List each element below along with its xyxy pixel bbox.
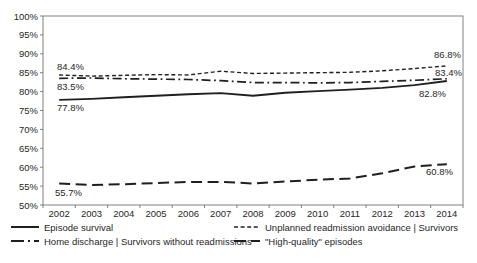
x-axis-label: 2013 xyxy=(404,208,425,219)
y-axis-label: 90% xyxy=(19,48,39,59)
series-line-unplanned-readmission-avoidance-survivors xyxy=(59,66,447,76)
y-axis-label: 65% xyxy=(19,143,39,154)
y-axis-label: 85% xyxy=(19,67,39,78)
x-axis-label: 2012 xyxy=(372,208,393,219)
solid-line-sample-icon xyxy=(10,222,40,232)
y-axis-label: 80% xyxy=(19,86,39,97)
data-label: 83.4% xyxy=(435,67,462,78)
data-label: 83.5% xyxy=(57,81,84,92)
plot-border xyxy=(43,16,463,205)
data-label: 86.8% xyxy=(434,49,461,60)
data-label: 60.8% xyxy=(426,166,453,177)
legend-item-episode-survival: Episode survival xyxy=(10,222,233,233)
legend-label-high-quality-episodes: "High-quality" episodes xyxy=(265,236,363,247)
y-axis-label: 95% xyxy=(19,29,39,40)
line-chart-figure: 100%95%90%85%80%75%70%65%60%55%50%200220… xyxy=(0,0,477,263)
dash-dot-line-sample-icon xyxy=(10,236,40,246)
x-axis-label: 2009 xyxy=(275,208,296,219)
legend-label-unplanned-readmission-avoidance: Unplanned readmission avoidance | Surviv… xyxy=(265,222,458,233)
legend-label-episode-survival: Episode survival xyxy=(44,222,113,233)
chart-legend: Episode survival Unplanned readmission a… xyxy=(0,220,477,248)
x-axis-label: 2004 xyxy=(113,208,134,219)
y-axis-label: 60% xyxy=(19,162,39,173)
series-line-episode-survival xyxy=(59,81,447,100)
dashed-line-sample-icon xyxy=(233,222,261,232)
y-axis-label: 75% xyxy=(19,105,39,116)
x-axis-label: 2006 xyxy=(178,208,199,219)
x-axis-label: 2002 xyxy=(49,208,70,219)
x-axis-label: 2011 xyxy=(340,208,360,219)
x-axis-label: 2005 xyxy=(146,208,167,219)
y-axis-label: 55% xyxy=(19,181,39,192)
x-axis-label: 2007 xyxy=(210,208,231,219)
x-axis-label: 2003 xyxy=(81,208,102,219)
legend-item-unplanned-readmission-avoidance: Unplanned readmission avoidance | Surviv… xyxy=(233,222,477,233)
y-axis-label: 50% xyxy=(19,200,39,211)
x-axis-label: 2010 xyxy=(307,208,328,219)
data-label: 55.7% xyxy=(55,187,82,198)
x-axis-label: 2014 xyxy=(436,208,457,219)
data-label: 84.4% xyxy=(57,61,84,72)
y-axis-label: 70% xyxy=(19,124,39,135)
long-dash-line-sample-icon xyxy=(233,236,261,246)
line-chart: 100%95%90%85%80%75%70%65%60%55%50%200220… xyxy=(0,0,477,220)
data-label: 82.8% xyxy=(419,88,446,99)
data-label: 77.8% xyxy=(57,102,84,113)
legend-item-high-quality-episodes: "High-quality" episodes xyxy=(233,236,477,247)
series-line-home-discharge-survivors-without-readmissions xyxy=(59,78,447,83)
y-axis-label: 100% xyxy=(14,11,39,22)
x-axis-label: 2008 xyxy=(242,208,263,219)
legend-item-home-discharge: Home discharge | Survivors without readm… xyxy=(10,236,233,247)
series-line-high-quality-episodes xyxy=(59,164,447,185)
legend-label-home-discharge: Home discharge | Survivors without readm… xyxy=(44,236,252,247)
